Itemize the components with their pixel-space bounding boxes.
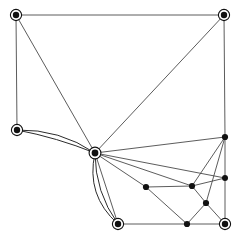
graph-canvas <box>0 0 240 238</box>
graph-node-ringed[interactable] <box>219 218 230 229</box>
node-core <box>92 150 99 157</box>
graph-node-ringed[interactable] <box>10 9 21 20</box>
graph-edge <box>95 153 118 224</box>
graph-node[interactable] <box>203 200 209 206</box>
graph-edge <box>95 15 224 153</box>
graph-edge <box>95 137 225 153</box>
node-core <box>184 221 190 227</box>
graph-node[interactable] <box>222 175 228 181</box>
graph-edge <box>192 137 225 186</box>
graph-node[interactable] <box>184 221 190 227</box>
graph-edge <box>206 137 225 203</box>
graph-node-ringed[interactable] <box>89 147 101 159</box>
graph-node[interactable] <box>189 183 195 189</box>
node-core <box>222 134 228 140</box>
graph-edge <box>146 186 192 187</box>
graph-figure <box>0 0 240 238</box>
node-core <box>221 12 227 18</box>
graph-node-ringed[interactable] <box>112 218 123 229</box>
edge-layer <box>16 15 225 224</box>
node-core <box>13 12 19 18</box>
graph-edge <box>187 203 206 224</box>
graph-edge <box>146 187 187 224</box>
graph-edge <box>95 153 192 186</box>
graph-edge <box>16 15 17 130</box>
node-core <box>222 175 228 181</box>
node-core <box>143 184 149 190</box>
node-core <box>189 183 195 189</box>
graph-node-ringed[interactable] <box>11 124 22 135</box>
node-core <box>203 200 209 206</box>
node-core <box>14 127 20 133</box>
graph-node[interactable] <box>222 134 228 140</box>
graph-edge <box>192 186 206 203</box>
node-core <box>115 221 121 227</box>
graph-node[interactable] <box>143 184 149 190</box>
node-layer <box>10 9 230 229</box>
node-core <box>222 221 228 227</box>
graph-node-ringed[interactable] <box>218 9 229 20</box>
graph-edge <box>224 15 225 137</box>
